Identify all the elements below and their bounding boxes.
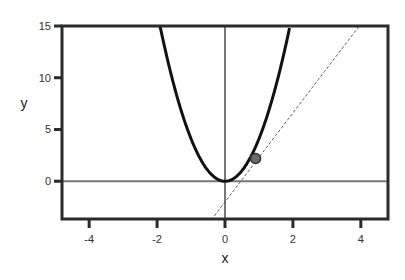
- x-axis-label: x: [222, 250, 229, 266]
- y-tick-label: 15: [39, 20, 51, 32]
- x-tick-label: 0: [222, 233, 228, 245]
- x-tick-label: 2: [290, 233, 296, 245]
- chart: -4-2024 051015 x y: [0, 0, 405, 280]
- y-tick-label: 0: [45, 175, 51, 187]
- y-tick-label: 10: [39, 72, 51, 84]
- y-axis-label: y: [21, 95, 28, 111]
- reference-lines: [62, 26, 388, 219]
- tangent-point-marker: [251, 153, 261, 163]
- tangent-line: [211, 26, 359, 220]
- x-axis-ticks: -4-2024: [84, 219, 364, 245]
- y-tick-label: 5: [45, 123, 51, 135]
- x-tick-label: 4: [358, 233, 364, 245]
- series-group: [160, 26, 359, 220]
- y-axis-ticks: 051015: [39, 20, 62, 187]
- x-tick-label: -2: [152, 233, 162, 245]
- x-tick-label: -4: [84, 233, 94, 245]
